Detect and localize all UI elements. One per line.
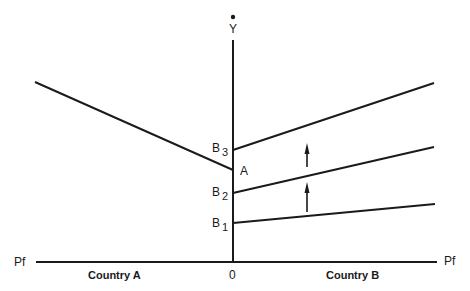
point-a-label: A <box>240 165 248 177</box>
country-a-line <box>35 82 233 170</box>
y-axis-label: Y <box>229 23 237 35</box>
b2-line <box>233 147 434 193</box>
diagram-canvas: Y B3 A B2 B1 Pf Pf 0 Country A Country B <box>0 0 470 291</box>
point-b2-label: B2 <box>212 186 228 202</box>
country-b-label: Country B <box>326 270 379 281</box>
b1-line <box>233 204 435 223</box>
origin-label: 0 <box>229 269 236 281</box>
point-b3-label: B3 <box>212 142 228 158</box>
pf-left-label: Pf <box>14 256 25 268</box>
axis-top-dot <box>231 15 235 19</box>
arrow-up-icon <box>305 143 310 167</box>
arrow-up-icon <box>305 182 310 212</box>
b3-line <box>233 83 434 150</box>
country-a-label: Country A <box>88 270 141 281</box>
point-b1-label: B1 <box>212 217 228 233</box>
diagram-lines <box>0 0 470 291</box>
pf-right-label: Pf <box>444 255 455 267</box>
